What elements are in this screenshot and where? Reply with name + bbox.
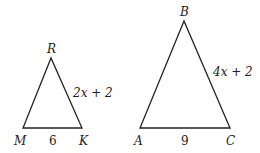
vertex-m-label: M xyxy=(13,134,27,148)
side-mk-label: 6 xyxy=(49,134,57,148)
vertex-b-label: B xyxy=(179,5,189,19)
vertex-k-label: K xyxy=(78,134,89,148)
vertex-r-label: R xyxy=(46,42,56,56)
side-rk-label: 2x + 2 xyxy=(72,86,113,100)
similar-triangles-diagram: R M K 6 2x + 2 B A C 9 4x + 2 xyxy=(0,0,260,153)
side-bc-label: 4x + 2 xyxy=(212,65,253,79)
triangle-bac: B A C 9 4x + 2 xyxy=(133,5,253,148)
triangle-rmk: R M K 6 2x + 2 xyxy=(13,42,113,148)
vertex-a-label: A xyxy=(133,134,143,148)
side-ac-label: 9 xyxy=(181,134,189,148)
vertex-c-label: C xyxy=(226,134,235,148)
